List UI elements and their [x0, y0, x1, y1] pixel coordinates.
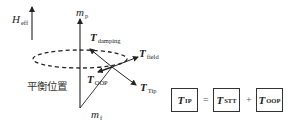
mp-label: mp [76, 7, 88, 20]
plus-sign: + [246, 94, 252, 105]
torque-diagram: Heff mp Tdamping Tfield TTip TOOP mf 平衡位… [0, 0, 298, 127]
h-eff-label: Heff [12, 14, 28, 27]
vector-drawing [0, 0, 298, 127]
t-field-label: Tfield [139, 48, 159, 61]
equals-sign: = [203, 94, 209, 105]
t-oop-box: TOOP [256, 88, 283, 112]
t-ip-box: TIP [171, 88, 198, 112]
equilibrium-label: 平衡位置 [27, 78, 67, 93]
t-field-arrow [112, 57, 138, 67]
t-oop-label: TOOP [87, 74, 108, 87]
t-damping-label: Tdamping [90, 32, 120, 45]
t-stt-box: TSTT [213, 88, 240, 112]
t-tip-label: TTip [140, 82, 157, 95]
mf-label: mf [91, 109, 102, 122]
t-tip-arrow [112, 67, 136, 85]
